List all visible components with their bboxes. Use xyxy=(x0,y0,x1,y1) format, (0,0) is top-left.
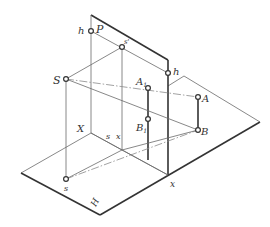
point-b xyxy=(196,128,201,133)
label-p: P xyxy=(95,23,104,36)
ray-s-to-b xyxy=(66,79,198,130)
label-h-right: h xyxy=(173,66,179,77)
s-to-b-ground-line xyxy=(66,130,198,179)
point-h-right xyxy=(166,71,171,76)
sx-to-x-line xyxy=(122,150,168,175)
ground-back-right-edge xyxy=(184,76,260,122)
label-x-upper: X xyxy=(76,123,85,134)
label-x-on-ground: x xyxy=(116,132,121,141)
ground-back-left-edge xyxy=(21,133,91,173)
label-station-s: S xyxy=(53,74,61,87)
ground-front-left-edge xyxy=(21,173,100,215)
label-s-bottom: s xyxy=(64,184,68,193)
label-a: A xyxy=(201,93,209,104)
s-to-sx-line xyxy=(66,150,122,179)
label-s-on-ground: s xyxy=(106,132,110,141)
label-h-left: h xyxy=(78,25,84,36)
perspective-projection-diagram: h P s' S h A1 A B1 B X s x s x H xyxy=(0,0,270,227)
label-ground-plane-h: H xyxy=(88,196,101,209)
point-s-ground xyxy=(64,177,69,182)
label-x-bottom: x xyxy=(170,179,175,189)
point-b1 xyxy=(146,117,151,122)
ground-front-right-edge xyxy=(100,122,260,215)
point-a xyxy=(196,95,201,100)
sx-to-b-line xyxy=(122,130,198,150)
ray-s-to-a xyxy=(66,79,198,97)
label-s-prime: s' xyxy=(124,38,130,46)
label-a1: A1 xyxy=(135,76,147,88)
point-h-left xyxy=(89,29,94,34)
label-b: B xyxy=(200,126,208,137)
ray-s-to-s-prime xyxy=(66,47,122,79)
label-b1: B1 xyxy=(135,122,147,134)
point-station-s xyxy=(64,77,69,82)
ground-back-notch xyxy=(168,76,184,86)
